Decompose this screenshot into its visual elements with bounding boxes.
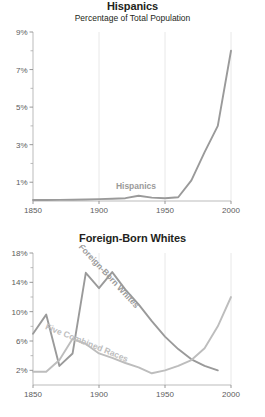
plot-area-hispanics: 1%3%5%7%9%1850190019502000Hispanics [0,24,265,224]
chart-title-hispanics: Hispanics [0,0,265,13]
chart-subtitle-hispanics: Percentage of Total Population [0,13,265,24]
line-chart-hispanics: 1%3%5%7%9%1850190019502000Hispanics [0,24,265,224]
series-line [33,51,231,200]
x-tick-label: 1850 [24,206,42,215]
y-tick-label: 2% [16,366,28,375]
y-tick-label: 1% [16,178,28,187]
y-tick-label: 5% [16,103,28,112]
y-tick-label: 14% [11,278,27,287]
y-tick-label: 9% [16,28,28,37]
line-chart-foreign-born-whites: 2%6%10%14%18%1850190019502000Foreign-Bor… [0,245,265,411]
y-tick-label: 10% [11,308,27,317]
chart-panel-hispanics: Hispanics Percentage of Total Population… [0,0,265,232]
chart-title-foreign-born-whites: Foreign-Born Whites [0,232,265,245]
x-tick-label: 2000 [222,390,240,399]
x-tick-label: 1900 [90,390,108,399]
y-tick-label: 6% [16,337,28,346]
series-label: Hispanics [116,181,156,191]
x-tick-label: 1900 [90,206,108,215]
x-tick-label: 1950 [156,206,174,215]
y-tick-label: 18% [11,249,27,258]
y-tick-label: 7% [16,66,28,75]
y-tick-label: 3% [16,141,28,150]
plot-area-foreign-born-whites: 2%6%10%14%18%1850190019502000Foreign-Bor… [0,245,265,411]
x-tick-label: 1950 [156,390,174,399]
series-label: Foreign-Born Whites [77,245,142,310]
x-tick-label: 1850 [24,390,42,399]
chart-panel-foreign-born-whites: Foreign-Born Whites 2%6%10%14%18%1850190… [0,232,265,417]
x-tick-label: 2000 [222,206,240,215]
